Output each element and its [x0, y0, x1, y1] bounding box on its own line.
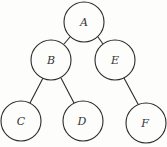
node-e-label: E — [110, 54, 119, 67]
edge-e-f — [124, 78, 138, 104]
node-f-label: F — [140, 117, 149, 130]
edge-a-e — [98, 37, 103, 44]
edge-b-c — [30, 78, 43, 103]
node-d-label: D — [77, 115, 87, 128]
tree-diagram: A B E C D F — [0, 0, 167, 147]
node-b-label: B — [46, 54, 55, 67]
edge-a-b — [64, 37, 70, 44]
edge-b-d — [61, 78, 74, 103]
node-a-label: A — [79, 16, 88, 29]
node-c-label: C — [17, 115, 26, 128]
